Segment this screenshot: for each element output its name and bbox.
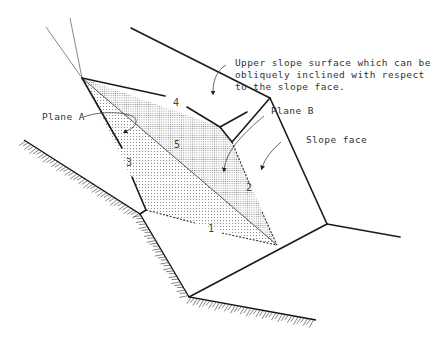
ground-hatch-tick bbox=[196, 299, 200, 305]
plane-a-base-link bbox=[140, 210, 146, 214]
ground-hatch-tick bbox=[36, 151, 41, 154]
ground-hatch-tick bbox=[166, 271, 174, 272]
ground-hatch-tick bbox=[70, 174, 77, 180]
ground-hatch-tick bbox=[172, 279, 179, 280]
ground-hatch-tick bbox=[160, 263, 168, 264]
plane-b-label: Plane B bbox=[271, 105, 314, 116]
ground-hatch-tick bbox=[275, 313, 279, 319]
slope-face-leader bbox=[262, 142, 281, 168]
ground-hatch-tick bbox=[155, 252, 162, 253]
ground-hatch-tick bbox=[147, 241, 156, 243]
ground-hatch-tick bbox=[307, 319, 311, 325]
ground-hatch-tick bbox=[285, 315, 289, 320]
ground-hatch-tick bbox=[174, 285, 182, 286]
intersection-line-5 bbox=[82, 78, 277, 245]
ground-hatch-tick bbox=[291, 316, 295, 322]
line-number-2: 2 bbox=[246, 182, 252, 193]
upper-slope-label-line-1: Upper slope surface which can be bbox=[235, 57, 431, 68]
ground-hatch-tick bbox=[50, 160, 55, 163]
ground-hatch-tick bbox=[90, 186, 95, 189]
ground-hatch-tick bbox=[206, 301, 210, 306]
ground-hatch-tick bbox=[179, 296, 188, 298]
ground-hatch-tick bbox=[56, 165, 63, 171]
ground-hatch-tick bbox=[110, 200, 117, 206]
ground-hatch-tick bbox=[142, 230, 150, 231]
ground-hatch-tick bbox=[139, 227, 148, 229]
ground-hatch-tick bbox=[82, 181, 88, 185]
line-number-4: 4 bbox=[173, 97, 179, 108]
line-number-1: 1 bbox=[208, 223, 214, 234]
ground-hatch-tick bbox=[163, 265, 170, 266]
ground-hatch-tick bbox=[117, 203, 122, 206]
ground-hatch-tick bbox=[139, 224, 146, 225]
ground-hatch-tick bbox=[150, 243, 158, 244]
ground-hatch-tick bbox=[152, 249, 160, 250]
ground-hatch-tick bbox=[300, 318, 304, 323]
ground-hatch-tick bbox=[253, 309, 257, 314]
ground-hatch-tick bbox=[23, 143, 28, 146]
upper-slope-leader bbox=[213, 65, 226, 93]
ground-hatch-tick bbox=[131, 212, 136, 215]
ground-hatch-tick bbox=[309, 320, 313, 328]
ground-hatch-tick bbox=[171, 282, 180, 284]
upper-slope-label-line-3: to the slope face. bbox=[235, 81, 345, 92]
ground-hatch-tick bbox=[133, 216, 141, 217]
ground-hatch-tick bbox=[147, 238, 154, 239]
ground-hatch-tick bbox=[95, 189, 101, 193]
ground-hatch-tick bbox=[237, 306, 241, 311]
plane-a-label: Plane A bbox=[42, 111, 85, 122]
ground-hatch-tick bbox=[155, 254, 164, 256]
slope-face-edge bbox=[270, 98, 327, 224]
ground-hatch-tick bbox=[169, 276, 177, 277]
ground-hatch-tick bbox=[63, 169, 68, 172]
ground-hatch-tick bbox=[68, 172, 74, 176]
slope-face-label: Slope face bbox=[306, 134, 367, 145]
crest-link-2 bbox=[232, 98, 270, 142]
ground-hatch-tick bbox=[28, 146, 34, 150]
ground-hatch-tick bbox=[259, 310, 263, 316]
ground-hatch-tick bbox=[144, 235, 152, 236]
ground-hatch-tick bbox=[109, 198, 115, 202]
ground-hatch-tick bbox=[122, 206, 128, 210]
ground-hatch-tick bbox=[180, 293, 187, 294]
ground-hatch-tick bbox=[29, 148, 36, 154]
ground-hatch-tick bbox=[83, 182, 90, 188]
ground-hatch-tick bbox=[77, 177, 82, 180]
ground-hatch-tick bbox=[244, 308, 248, 314]
ground-hatch-tick bbox=[228, 305, 232, 311]
ground-hatch-tick bbox=[158, 257, 166, 258]
ground-hatch-tick bbox=[104, 194, 109, 197]
upper-slope-label-line-2: obliquely inclined with respect bbox=[235, 69, 425, 80]
ground-hatch-tick bbox=[269, 312, 273, 317]
ground-hatch-tick bbox=[190, 298, 194, 303]
ground-hatch-tick bbox=[212, 302, 216, 308]
ground-hatch-tick bbox=[97, 191, 104, 197]
crest-link-3 bbox=[220, 112, 247, 127]
ground-hatch-tick bbox=[177, 290, 185, 291]
line-number-5: 5 bbox=[174, 139, 180, 150]
ground-hatch-tick bbox=[136, 221, 144, 222]
ground-hatch-tick bbox=[43, 157, 50, 163]
ground-hatch-tick bbox=[41, 155, 47, 159]
ground-hatch-tick bbox=[55, 163, 61, 167]
ground-hatch-tick bbox=[124, 208, 131, 214]
ground-hatch-tick bbox=[163, 268, 172, 270]
ground-hatch-tick bbox=[222, 304, 226, 309]
upper-bench-edge bbox=[327, 224, 400, 237]
line-number-3: 3 bbox=[126, 157, 132, 168]
wedge-failure-diagram: Upper slope surface which can be oblique… bbox=[0, 0, 439, 347]
